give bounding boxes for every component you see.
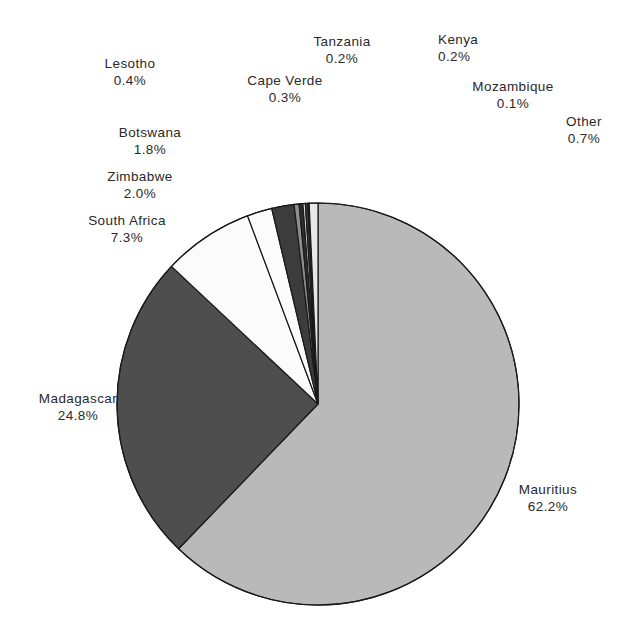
slice-label-mozambique-value: 0.1% [452, 95, 574, 112]
slice-label-zimbabwe: Zimbabwe 2.0% [85, 168, 195, 202]
slice-label-other-value: 0.7% [550, 130, 618, 147]
slice-label-cape-verde-value: 0.3% [236, 89, 334, 106]
slice-label-lesotho-value: 0.4% [78, 72, 182, 89]
slice-label-mauritius-name: Mauritius [496, 481, 600, 498]
slice-label-madagascar: Madagascar 24.8% [12, 390, 144, 424]
slice-label-botswana: Botswana 1.8% [95, 124, 205, 158]
slice-label-south-africa-value: 7.3% [62, 229, 192, 246]
slice-label-mozambique: Mozambique 0.1% [452, 78, 574, 112]
slice-label-zimbabwe-value: 2.0% [85, 185, 195, 202]
slice-label-madagascar-name: Madagascar [12, 390, 144, 407]
slice-label-cape-verde-name: Cape Verde [236, 72, 334, 89]
slice-label-lesotho-name: Lesotho [78, 55, 182, 72]
slice-label-south-africa-name: South Africa [62, 212, 192, 229]
pie-slices-group [117, 203, 519, 605]
slice-label-south-africa: South Africa 7.3% [62, 212, 192, 246]
slice-label-botswana-name: Botswana [95, 124, 205, 141]
slice-label-other-name: Other [550, 113, 618, 130]
slice-label-mauritius: Mauritius 62.2% [496, 481, 600, 515]
slice-label-mauritius-value: 62.2% [496, 498, 600, 515]
slice-label-other: Other 0.7% [550, 113, 618, 147]
slice-label-mozambique-name: Mozambique [452, 78, 574, 95]
slice-label-tanzania-value: 0.2% [296, 50, 388, 67]
slice-label-lesotho: Lesotho 0.4% [78, 55, 182, 89]
slice-label-zimbabwe-name: Zimbabwe [85, 168, 195, 185]
slice-label-tanzania-name: Tanzania [296, 33, 388, 50]
slice-label-kenya: Kenya 0.2% [438, 31, 528, 65]
slice-label-cape-verde: Cape Verde 0.3% [236, 72, 334, 106]
slice-label-tanzania: Tanzania 0.2% [296, 33, 388, 67]
slice-label-botswana-value: 1.8% [95, 141, 205, 158]
slice-label-madagascar-value: 24.8% [12, 407, 144, 424]
slice-label-kenya-value: 0.2% [438, 48, 528, 65]
pie-chart-figure: Lesotho 0.4% Cape Verde 0.3% Tanzania 0.… [0, 0, 633, 625]
slice-label-kenya-name: Kenya [438, 31, 528, 48]
